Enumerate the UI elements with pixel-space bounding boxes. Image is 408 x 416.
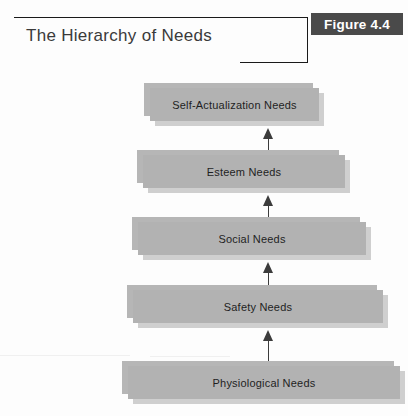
- header-rule-bottom: [240, 62, 308, 63]
- pyramid-level-self-actualization: Self-Actualization Needs: [150, 88, 319, 121]
- bar-face: Esteem Needs: [143, 155, 345, 188]
- header-rule-top: [14, 17, 308, 18]
- pyramid-level-label: Esteem Needs: [207, 166, 282, 178]
- pyramid-level-safety: Safety Needs: [133, 290, 383, 323]
- page-artifact-line: [150, 356, 230, 357]
- bar-face: Self-Actualization Needs: [150, 88, 319, 121]
- pyramid-level-label: Social Needs: [218, 233, 285, 245]
- pyramid-level-social: Social Needs: [138, 222, 366, 255]
- pyramid-level-physiological: Physiological Needs: [128, 366, 400, 399]
- pyramid-level-label: Self-Actualization Needs: [172, 99, 297, 111]
- page-artifact-line: [0, 355, 130, 356]
- bar-face: Social Needs: [138, 222, 366, 255]
- figure-page: The Hierarchy of Needs Figure 4.4 Self-A…: [0, 0, 408, 416]
- pyramid-level-esteem: Esteem Needs: [143, 155, 345, 188]
- bar-face: Physiological Needs: [128, 366, 400, 399]
- figure-number-tag: Figure 4.4: [311, 13, 403, 35]
- header-rule-right: [307, 17, 308, 63]
- figure-title: The Hierarchy of Needs: [26, 26, 212, 46]
- pyramid-level-label: Physiological Needs: [213, 377, 316, 389]
- pyramid-level-label: Safety Needs: [224, 301, 292, 313]
- bar-face: Safety Needs: [133, 290, 383, 323]
